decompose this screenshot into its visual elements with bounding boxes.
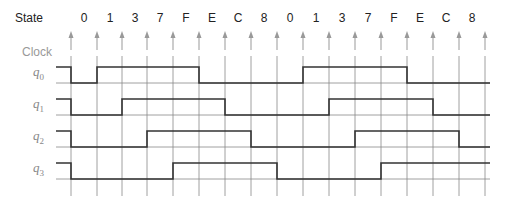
arrow-head-icon <box>353 31 358 38</box>
arrow-head-icon <box>275 31 280 38</box>
arrow-head-icon <box>327 31 332 38</box>
arrow-head-icon <box>95 31 100 38</box>
arrow-head-icon <box>379 31 384 38</box>
arrow-head-icon <box>457 31 462 38</box>
arrow-head-icon <box>69 31 74 38</box>
arrow-head-icon <box>171 31 176 38</box>
q1-waveform <box>56 99 490 115</box>
arrow-head-icon <box>197 31 202 38</box>
timing-diagram <box>0 0 515 202</box>
arrow-head-icon <box>431 31 436 38</box>
arrow-head-icon <box>223 31 228 38</box>
arrow-head-icon <box>249 31 254 38</box>
arrow-head-icon <box>120 31 125 38</box>
arrow-head-icon <box>405 31 410 38</box>
arrow-head-icon <box>301 31 306 38</box>
arrow-head-icon <box>483 31 488 38</box>
q2-waveform <box>56 131 490 147</box>
q0-waveform <box>56 67 490 83</box>
arrow-head-icon <box>145 31 150 38</box>
q3-waveform <box>56 163 490 179</box>
